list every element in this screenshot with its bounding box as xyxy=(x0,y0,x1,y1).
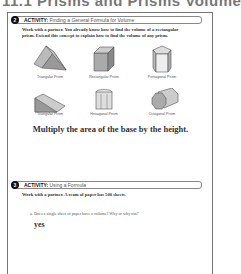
question-bullet: a. xyxy=(30,211,33,216)
activity-heading: Using a Formula xyxy=(49,182,86,188)
activity-3-instructions: Work with a partner. A ream of paper has… xyxy=(22,192,126,198)
prism-label: Octagonal Prism xyxy=(137,112,187,116)
page-title: 11.1 Prisms and Prisms Volume xyxy=(2,0,241,9)
activity-2-answer: Multiply the area of the base by the hei… xyxy=(0,124,221,134)
octagonal-prism-icon xyxy=(150,88,180,112)
question-text: Does a single sheet of paper have a volu… xyxy=(34,211,139,216)
hexagonal-prism-icon xyxy=(94,88,116,112)
triangular-prism-icon xyxy=(32,44,68,74)
rectangular-prism-icon xyxy=(92,45,116,73)
prism-label: Pentagonal Prism xyxy=(137,75,187,79)
activity-keyword: ACTIVITY: xyxy=(24,17,48,23)
activity-keyword: ACTIVITY: xyxy=(24,182,48,188)
activity-number-badge: 3 xyxy=(11,181,19,189)
question-a-answer: yes xyxy=(34,220,45,229)
prism-label: Triangular Prism xyxy=(25,75,75,79)
pentagonal-prism-icon xyxy=(150,44,174,74)
activity-heading: Finding a General Formula for Volume xyxy=(49,17,134,23)
activity-2-instructions-2: prism. Extend this concept to explain ho… xyxy=(22,33,168,39)
activity-number-badge: 2 xyxy=(11,16,19,24)
question-a: a. Does a single sheet of paper have a v… xyxy=(30,211,139,216)
prism-label: Hexagonal Prism xyxy=(79,112,129,116)
activity-2-header: 2 ACTIVITY: Finding a General Formula fo… xyxy=(12,16,202,24)
prism-label: Triangular Prism xyxy=(25,112,75,116)
prism-label: Rectangular Prism xyxy=(79,75,129,79)
activity-3-header: 3 ACTIVITY: Using a Formula xyxy=(12,181,202,189)
